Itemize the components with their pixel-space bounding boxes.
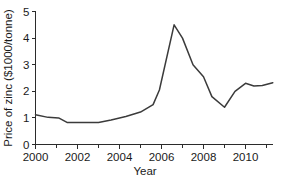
x-tick-label-2004: 2004 (107, 151, 133, 163)
x-tick-label-2006: 2006 (149, 151, 175, 163)
x-axis: 200020022004200620082010 (23, 145, 273, 163)
x-tick-label-2008: 2008 (191, 151, 217, 163)
zinc-price-chart: 012345 200020022004200620082010 Year Pri… (0, 0, 281, 179)
zinc-price-line (36, 25, 273, 123)
y-tick-label-2: 2 (23, 85, 29, 97)
data-series-group (36, 25, 273, 123)
x-axis-tick-labels: 200020022004200620082010 (23, 151, 259, 163)
x-tick-label-2002: 2002 (65, 151, 91, 163)
chart-plot-area: 012345 200020022004200620082010 Year Pri… (0, 0, 281, 179)
y-axis-title: Price of zinc ($1000/tonne) (2, 9, 14, 147)
x-axis-title: Year (133, 165, 156, 177)
y-axis-tick-labels: 012345 (23, 6, 30, 151)
y-tick-label-1: 1 (23, 112, 29, 124)
y-tick-label-4: 4 (23, 32, 30, 44)
y-tick-label-3: 3 (23, 59, 29, 71)
y-tick-label-5: 5 (23, 6, 29, 18)
y-tick-label-0: 0 (23, 139, 29, 151)
x-tick-label-2000: 2000 (23, 151, 49, 163)
x-tick-label-2010: 2010 (233, 151, 259, 163)
y-axis: 012345 (23, 6, 35, 151)
